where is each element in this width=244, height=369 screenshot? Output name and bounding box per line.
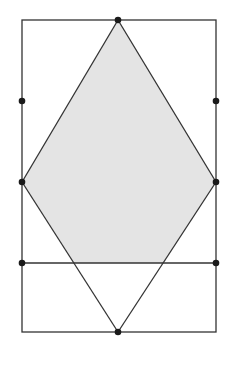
vertex-dot <box>19 98 26 105</box>
vertex-dot <box>213 98 220 105</box>
vertex-dot <box>213 179 220 186</box>
vertex-dot <box>115 17 122 24</box>
vertex-dot <box>115 329 122 336</box>
vertex-dot <box>19 179 26 186</box>
vertex-dot <box>19 260 26 267</box>
vertex-dot <box>213 260 220 267</box>
rhombus-in-rectangle-diagram <box>0 0 244 369</box>
